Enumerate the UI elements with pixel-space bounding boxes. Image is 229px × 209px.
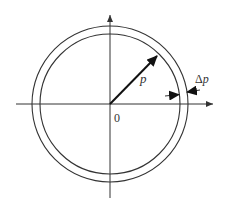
delta-arrow-right [187,90,200,92]
delta-arrow-left [165,95,179,97]
delta-symbol: Δ [195,72,203,86]
delta-radius-label: Δp [195,73,209,85]
ring-diagram [0,0,229,209]
radius-label: p [140,72,147,85]
radius-arrow [110,56,157,104]
origin-label: 0 [114,112,120,124]
delta-variable: p [203,72,209,86]
